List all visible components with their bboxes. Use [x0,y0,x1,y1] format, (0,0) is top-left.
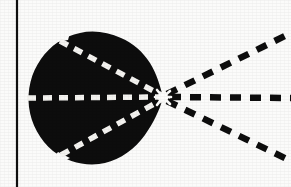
ray-inner-axis [27,97,163,98]
figure-canvas [0,0,291,187]
scanned-figure [0,0,291,187]
